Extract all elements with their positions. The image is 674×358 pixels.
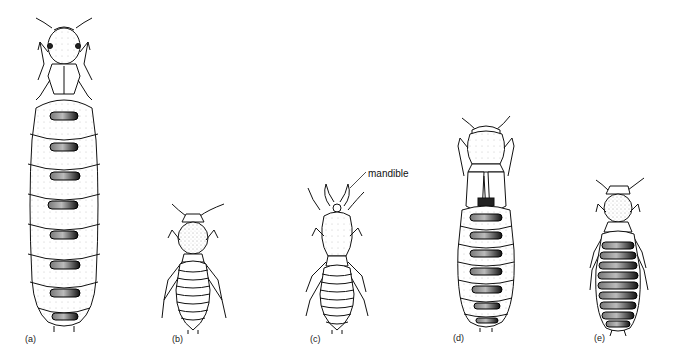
antenna-icon bbox=[36, 18, 52, 28]
mandible-callout: mandible bbox=[368, 168, 409, 179]
mandible-left bbox=[325, 184, 334, 206]
mandible-right bbox=[340, 184, 349, 206]
termite-d-reproductive bbox=[458, 116, 515, 332]
panel-label-e: (e) bbox=[594, 333, 605, 343]
termite-a-queen bbox=[28, 18, 100, 332]
mandible-callout-line bbox=[350, 172, 366, 188]
illustration-canvas bbox=[0, 0, 674, 358]
termite-castes-figure: (a) (b) (c) (d) (e) mandible bbox=[0, 0, 674, 358]
termite-c-soldier bbox=[306, 172, 368, 334]
panel-label-c: (c) bbox=[310, 334, 321, 344]
panel-label-b: (b) bbox=[172, 334, 183, 344]
dorsal-plates bbox=[598, 242, 638, 327]
termite-e-reproductive bbox=[590, 178, 648, 336]
panel-label-a: (a) bbox=[25, 334, 36, 344]
panel-label-d: (d) bbox=[453, 333, 464, 343]
termite-b-worker bbox=[162, 204, 226, 334]
